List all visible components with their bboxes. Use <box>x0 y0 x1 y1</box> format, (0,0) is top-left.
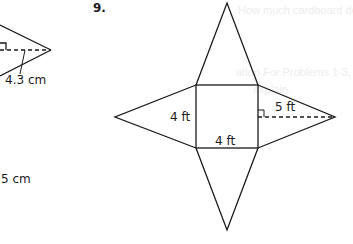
slant-height-label: 4.3 cm <box>5 73 46 87</box>
square-side-bottom-label: 4 ft <box>215 134 235 148</box>
worksheet-figure: How much cardboard do they need for each… <box>0 0 353 244</box>
right-angle-mark <box>258 110 264 117</box>
bottom-triangle <box>196 148 258 230</box>
leader-line <box>20 50 25 74</box>
pyramid-net <box>115 3 335 230</box>
right-angle-mark <box>0 43 6 50</box>
geometry-canvas: 4.3 cm 5 cm 9. 4 ft 4 ft 5 ft <box>0 0 353 244</box>
problem-number: 9. <box>93 1 106 15</box>
left-partial-triangle <box>0 25 51 76</box>
triangle-height-label: 5 ft <box>275 100 295 114</box>
top-triangle <box>196 3 258 85</box>
base-label: 5 cm <box>1 172 31 186</box>
square-side-left-label: 4 ft <box>170 110 190 124</box>
